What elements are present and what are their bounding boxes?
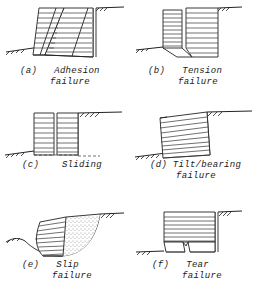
panel-b-artwork bbox=[136, 7, 242, 57]
panel-e-diagram bbox=[0, 196, 130, 262]
panel-d-svg bbox=[130, 100, 260, 162]
ground-hatch-upper-c bbox=[80, 113, 99, 117]
panel-c-tag: (c) bbox=[22, 160, 39, 170]
ground-hatch-lower-f bbox=[137, 252, 150, 255]
panel-d-label-line2: failure bbox=[150, 171, 216, 181]
panel-a-label-line1: Adhesion bbox=[54, 66, 100, 76]
failure-modes-figure: (a) Adhesion failure bbox=[0, 0, 260, 297]
panel-d-label-line1: Tilt/bearing bbox=[173, 160, 241, 170]
ground-hatch-upper-a bbox=[96, 8, 107, 11]
panel-a-label-line2: failure bbox=[20, 77, 90, 87]
ground-hatch-upper-e bbox=[101, 214, 114, 218]
panel-b-label-line2: failure bbox=[148, 77, 218, 87]
panel-a-tag: (a) bbox=[20, 66, 37, 76]
panel-d-tag: (d) bbox=[150, 160, 167, 170]
ground-hatch-upper-b bbox=[218, 8, 229, 11]
panel-c-svg bbox=[0, 100, 130, 162]
panel-f-tag: (f) bbox=[152, 260, 169, 270]
panel-e-label-line2: failure bbox=[22, 271, 92, 281]
panel-d-diagram bbox=[130, 100, 260, 162]
panel-f-artwork bbox=[136, 211, 242, 255]
panel-a-diagram bbox=[0, 0, 130, 66]
panel-d-artwork bbox=[135, 111, 252, 160]
panel-e-artwork bbox=[6, 213, 124, 256]
panel-b-tag: (b) bbox=[148, 66, 165, 76]
panel-c-label-line1: Sliding bbox=[62, 160, 102, 170]
panel-c-caption: (c) Sliding bbox=[22, 160, 102, 171]
panel-b-label-line1: Tension bbox=[182, 66, 222, 76]
soil-wedge-stipple bbox=[62, 214, 100, 256]
panel-f-label-line1: Tear bbox=[186, 260, 209, 270]
panel-a-artwork bbox=[6, 7, 124, 57]
ground-hatch-upper-d bbox=[208, 112, 222, 116]
panel-b-caption: (b) Tension failure bbox=[148, 66, 222, 88]
panel-e-caption: (e) Slip failure bbox=[22, 260, 92, 282]
panel-f-diagram bbox=[130, 196, 260, 262]
panel-a-svg bbox=[0, 0, 130, 66]
panel-c-diagram bbox=[0, 100, 130, 162]
panel-a-caption: (a) Adhesion failure bbox=[20, 66, 100, 88]
panel-d-caption: (d) Tilt/bearing failure bbox=[150, 160, 241, 182]
ground-hatch-upper-f bbox=[219, 212, 231, 216]
panel-e-label-line1: Slip bbox=[56, 260, 79, 270]
panel-f-svg bbox=[130, 196, 260, 262]
panel-e-tag: (e) bbox=[22, 260, 39, 270]
panel-c-artwork bbox=[5, 112, 122, 158]
panel-f-label-line2: failure bbox=[152, 271, 222, 281]
panel-b-diagram bbox=[130, 0, 260, 66]
panel-b-svg bbox=[130, 0, 260, 66]
panel-e-svg bbox=[0, 196, 130, 262]
panel-f-caption: (f) Tear failure bbox=[152, 260, 222, 282]
